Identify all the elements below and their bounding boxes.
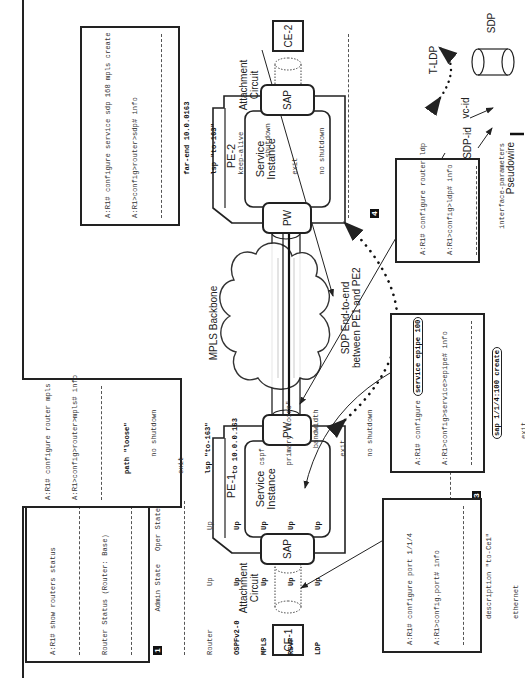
terminal-3-mpls-config: A:R1# configure router mpls A:R1>config>…: [22, 378, 182, 508]
t4-badge: 4: [370, 209, 379, 218]
legend: [440, 48, 524, 134]
vc-id-label: vc-id: [460, 93, 471, 123]
terminal-5-port-config: A:R1# configure port 1/1/4 A:R1>config.p…: [382, 498, 482, 653]
t1-row: RSVP Up Up: [287, 501, 296, 655]
mpls-backbone-label: MPLS Backbone: [208, 268, 219, 378]
arrow-sdpid: [478, 128, 492, 148]
t1-row: Router Up Up: [206, 501, 215, 655]
t1-row: OSPFv2-0 Up Up: [233, 501, 242, 655]
terminal-6-epipe-config: A:R1# configure service epipe 100 A:R1>c…: [390, 313, 485, 473]
legend-sdp-label: SDP: [486, 8, 497, 38]
arrow-vcid: [470, 108, 493, 118]
t1-badge: 1: [153, 646, 162, 655]
t6-service-epipe-oval: service epipe 100: [413, 317, 423, 396]
legend-tldp-arc: [440, 48, 451, 98]
diagram-canvas: CE-1 CE-2 SAP PW PW SAP PE-1 PE-2 Servic…: [0, 0, 525, 678]
t1-col-oper: Oper State: [154, 508, 162, 551]
terminal-1-router-status: A:R1# show routers status Router Status …: [25, 493, 150, 663]
t1-col-admin: Admin State: [154, 564, 162, 611]
sdp-id-label: SDP-id: [462, 123, 473, 163]
sdp-end-to-end-label: SDP End-to-end between PE1 and PE2: [340, 268, 362, 368]
mpls-cloud: [220, 243, 330, 389]
terminal-2-ldp-config: A:R1# configure router ldp A:R1>config>l…: [395, 158, 480, 263]
t6-sap-oval: sap 1/1/4:100 create: [492, 347, 502, 439]
diagram-frame: CE-1 CE-2 SAP PW PW SAP PE-1 PE-2 Servic…: [0, 0, 525, 678]
legend-tldp-label: T-LDP: [428, 40, 439, 80]
t1-row: MPLS Up Up: [260, 501, 269, 655]
t1-prompt: A:R1# show routers status: [49, 501, 58, 655]
t1-header: Router Status (Router: Base): [101, 501, 110, 655]
t1-row: LDP Up Up: [314, 501, 323, 655]
terminal-4-sdp-config: A:R1# configure service sdp 168 mpls cre…: [80, 26, 180, 226]
